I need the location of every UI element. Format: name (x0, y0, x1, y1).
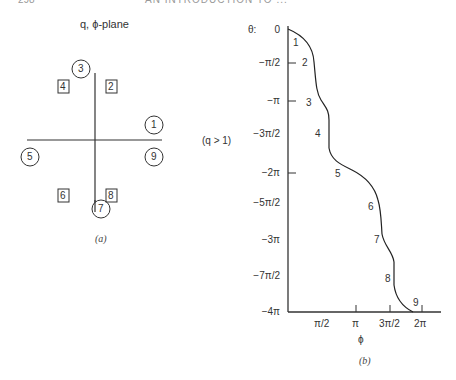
circle-label-1: 1 (151, 119, 157, 130)
y-tick-neg-4pi: −4π (262, 306, 280, 317)
curve-label-8: 8 (385, 273, 391, 284)
q-condition-label: (q > 1) (202, 135, 231, 146)
curve-label-5: 5 (335, 168, 341, 179)
y-tick-neg-pi-half: −π/2 (259, 57, 280, 68)
curve-label-3: 3 (306, 97, 312, 108)
curve-label-1: 1 (293, 37, 299, 48)
box-label-8: 8 (108, 190, 114, 201)
curve-label-2: 2 (302, 57, 308, 68)
panel-a-caption: (a) (95, 233, 107, 244)
circle-label-3: 3 (78, 63, 84, 74)
x-tick-pi-half: π/2 (314, 318, 329, 329)
circle-label-9: 9 (151, 151, 157, 162)
y-tick-0: 0 (274, 24, 280, 35)
box-label-2: 2 (108, 81, 114, 92)
x-tick-3pi-half: 3π/2 (379, 318, 400, 329)
phi-axis-name: ϕ (358, 334, 364, 345)
y-tick-neg-2pi: −2π (262, 167, 280, 178)
x-tick-2pi: 2π (414, 318, 426, 329)
curve-label-9: 9 (413, 297, 419, 308)
x-tick-pi: π (352, 318, 359, 329)
curve-label-7: 7 (374, 234, 380, 245)
panel-b-caption: (b) (359, 355, 371, 366)
y-tick-neg-7pi-half: −7π/2 (253, 270, 280, 281)
y-tick-neg-3pi-half: −3π/2 (253, 128, 280, 139)
circle-label-7: 7 (98, 203, 104, 214)
y-tick-neg-pi: −π (267, 95, 280, 106)
curve-label-6: 6 (368, 201, 374, 212)
circle-label-5: 5 (27, 151, 33, 162)
box-label-6: 6 (60, 190, 66, 201)
y-tick-neg-5pi-half: −5π/2 (253, 197, 280, 208)
theta-phi-curve (288, 29, 413, 312)
curve-label-4: 4 (315, 128, 321, 139)
y-tick-neg-3pi: −3π (262, 234, 280, 245)
box-label-4: 4 (60, 81, 66, 92)
theta-axis-name: θ: (248, 24, 256, 35)
